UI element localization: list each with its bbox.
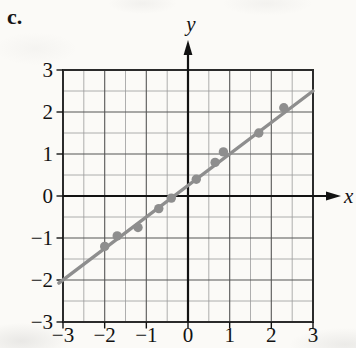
svg-text:−1: −1	[135, 323, 157, 347]
svg-text:1: 1	[224, 323, 235, 347]
svg-text:−2: −2	[31, 268, 53, 292]
svg-text:0: 0	[43, 184, 54, 208]
axis-ticks	[57, 70, 314, 329]
svg-text:3: 3	[43, 58, 54, 82]
y-axis-label: y	[184, 12, 196, 36]
svg-text:2: 2	[43, 100, 54, 124]
svg-text:−1: −1	[31, 226, 53, 250]
svg-text:−2: −2	[93, 323, 115, 347]
trend-line	[59, 91, 313, 283]
textbook-figure: −3−2−10123−3−2−10123xy c.	[0, 0, 356, 348]
scatter-plot: −3−2−10123−3−2−10123xy	[0, 0, 356, 348]
svg-text:0: 0	[183, 323, 194, 347]
figure-part-label: c.	[7, 6, 22, 28]
x-axis-label: x	[343, 184, 354, 208]
svg-text:3: 3	[308, 323, 319, 347]
svg-text:−3: −3	[31, 310, 53, 334]
tick-labels: −3−2−10123−3−2−10123	[31, 58, 319, 347]
svg-text:−3: −3	[52, 323, 74, 347]
svg-text:1: 1	[43, 142, 54, 166]
svg-text:2: 2	[266, 323, 277, 347]
